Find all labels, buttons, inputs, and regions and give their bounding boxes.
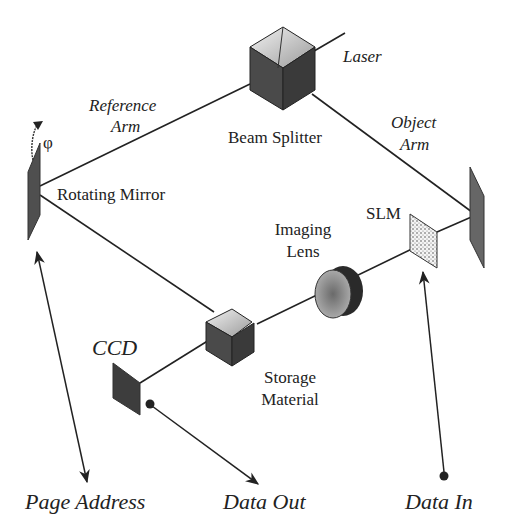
page-address-arrow bbox=[37, 252, 87, 482]
mirror-to-storage-beam bbox=[40, 195, 214, 312]
holographic-storage-diagram: Laser Beam Splitter Reference Arm Object… bbox=[0, 0, 509, 527]
storage-material-cube bbox=[206, 309, 254, 366]
storage-material-label-line1: Storage bbox=[258, 369, 322, 386]
data-in-arrow bbox=[423, 272, 444, 472]
data-in-label: Data In bbox=[405, 491, 473, 513]
data-in-dot bbox=[440, 472, 449, 481]
object-arm-label-line1: Object bbox=[391, 114, 436, 131]
data-out-label: Data Out bbox=[223, 491, 306, 513]
phi-angle-symbol: φ bbox=[43, 134, 53, 151]
slm-label: SLM bbox=[366, 205, 401, 222]
diagram-graphics bbox=[0, 0, 509, 527]
rotating-mirror bbox=[28, 121, 43, 240]
laser-label: Laser bbox=[343, 48, 382, 65]
page-address-label: Page Address bbox=[25, 491, 145, 513]
beam-splitter-label: Beam Splitter bbox=[228, 129, 322, 146]
storage-material-label-line2: Material bbox=[258, 391, 322, 408]
object-arm-mirror bbox=[470, 167, 484, 268]
beam-splitter-cube bbox=[250, 27, 315, 110]
ccd-sensor bbox=[113, 363, 140, 415]
imaging-lens bbox=[315, 266, 363, 318]
imaging-lens-label-line1: Imaging bbox=[273, 221, 333, 238]
imaging-lens-label-line2: Lens bbox=[273, 243, 333, 260]
object-arm-label-line2: Arm bbox=[400, 136, 429, 153]
slm-panel bbox=[410, 214, 437, 268]
data-out-arrow bbox=[152, 406, 258, 484]
ccd-label: CCD bbox=[92, 337, 137, 359]
reference-arm-label-line2: Arm bbox=[111, 118, 140, 135]
storage-to-ccd-beam bbox=[140, 337, 214, 383]
rotating-mirror-label: Rotating Mirror bbox=[57, 186, 165, 203]
reference-arm-label-line1: Reference bbox=[89, 97, 156, 114]
